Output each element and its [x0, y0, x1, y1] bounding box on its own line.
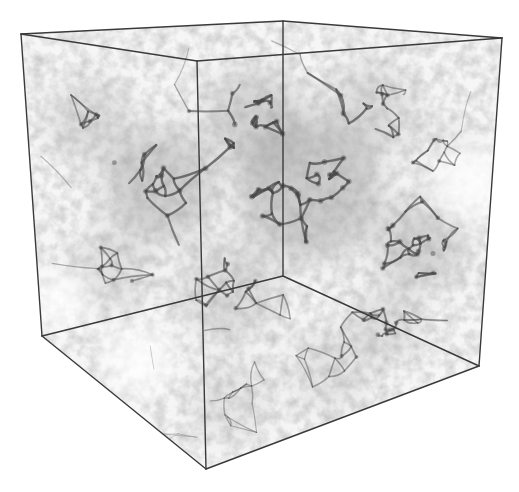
grain-texture	[0, 0, 519, 492]
cosmic-web-cube	[0, 0, 519, 492]
simulation-figure	[0, 0, 519, 492]
density-field	[0, 0, 519, 492]
